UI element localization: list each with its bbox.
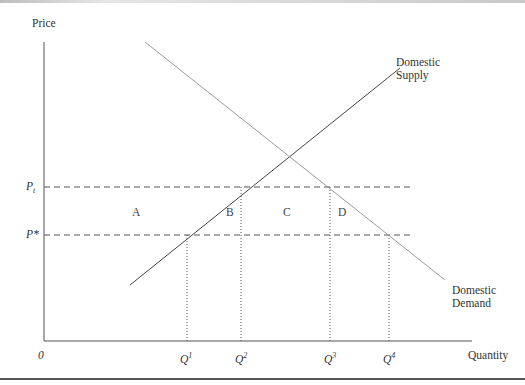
demand-label: Domestic Demand xyxy=(452,284,496,310)
area-d-label: D xyxy=(338,206,346,218)
x-axis-label: Quantity xyxy=(468,349,508,362)
area-a-label: A xyxy=(132,206,140,218)
area-b-label: B xyxy=(226,206,234,218)
supply-label-line1: Domestic xyxy=(396,56,440,69)
chart-plot xyxy=(0,0,525,385)
demand-label-line1: Domestic xyxy=(452,284,496,297)
pstar-label: P* xyxy=(26,228,39,241)
chart-canvas: Price Quantity 0 Pt P* Q1 Q2 Q3 Q4 A B C… xyxy=(0,0,525,385)
demand-label-line2: Demand xyxy=(452,297,496,310)
bottom-rule xyxy=(0,378,525,380)
q2-label: Q2 xyxy=(235,349,247,366)
pt-label: Pt xyxy=(26,180,35,197)
origin-label: 0 xyxy=(38,349,44,362)
q1-label: Q1 xyxy=(180,349,192,366)
supply-curve xyxy=(130,68,400,285)
supply-label-line2: Supply xyxy=(396,69,440,82)
area-c-label: C xyxy=(283,206,291,218)
supply-label: Domestic Supply xyxy=(396,56,440,82)
y-axis-label: Price xyxy=(32,17,56,30)
q3-label: Q3 xyxy=(324,349,336,366)
q4-label: Q4 xyxy=(383,349,395,366)
